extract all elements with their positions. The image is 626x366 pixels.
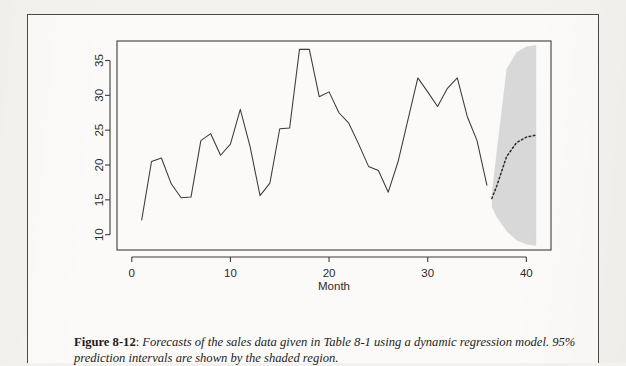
y-tick-label: 20 <box>93 159 105 172</box>
x-axis <box>132 257 527 262</box>
y-tick-label: 30 <box>93 89 105 102</box>
observed-series-line <box>142 49 487 220</box>
x-tick-label: 40 <box>520 267 533 279</box>
x-tick-labels: 010203040 <box>129 267 533 279</box>
y-tick-label: 25 <box>93 124 105 137</box>
x-axis-title: Month <box>318 280 350 292</box>
y-tick-labels: 101520253035 <box>93 54 105 241</box>
prediction-interval-band <box>492 45 536 246</box>
caption-body-text: Forecasts of the sales data given in Tab… <box>74 335 575 365</box>
forecast-chart: 101520253035 010203040 Month <box>28 15 600 305</box>
x-tick-label: 30 <box>421 267 434 279</box>
y-tick-label: 35 <box>93 54 105 67</box>
y-axis <box>105 61 110 235</box>
figure-plot-area: 101520253035 010203040 Month <box>28 15 600 305</box>
y-tick-label: 15 <box>93 193 105 206</box>
figure-number-label: Figure 8-12 <box>74 335 136 349</box>
plot-frame <box>117 41 551 250</box>
paper-sheet: 101520253035 010203040 Month Figure 8-12… <box>27 14 599 363</box>
x-tick-label: 20 <box>323 267 336 279</box>
x-tick-label: 0 <box>129 267 135 279</box>
y-tick-label: 10 <box>93 228 105 241</box>
caption-separator: : <box>136 335 140 349</box>
figure-caption: Figure 8-12: Forecasts of the sales data… <box>74 335 604 366</box>
x-tick-label: 10 <box>224 267 237 279</box>
